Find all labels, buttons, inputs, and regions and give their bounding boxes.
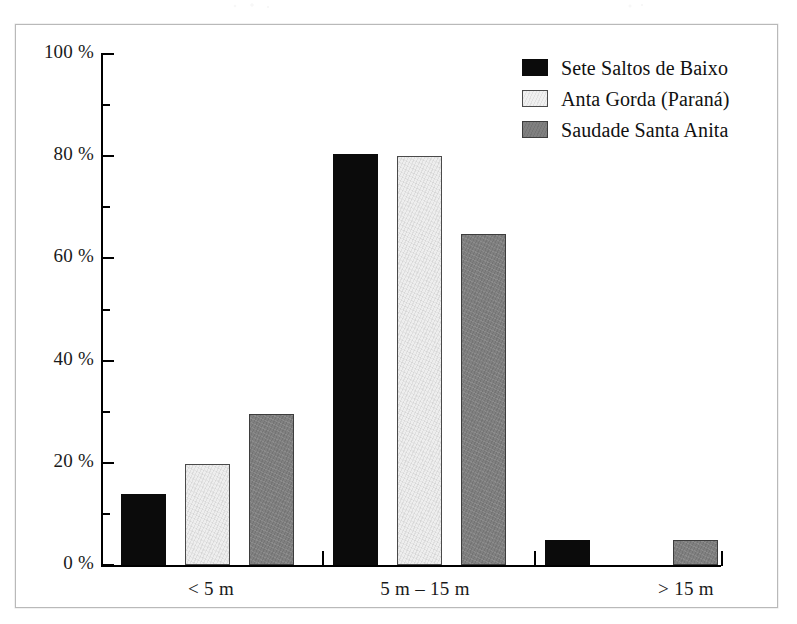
legend-item-label: Saudade Santa Anita [561,119,728,141]
y-axis-line [101,54,103,567]
bar [333,154,378,565]
gray-swatch-icon [522,121,548,138]
x-category-label: 5 m – 15 m [380,578,470,600]
scan-artifact [0,0,797,14]
x-axis-line [101,565,721,567]
y-tick-label: 100 % [44,42,94,62]
y-tick-label: 40 % [54,349,94,369]
bar [397,156,442,565]
legend-item: Saudade Santa Anita [522,114,780,145]
light-swatch-icon [522,90,548,107]
y-tick-label: 60 % [54,246,94,266]
y-tick-label: 0 % [63,553,94,573]
y-tick-minor [101,411,110,413]
bar [673,540,718,565]
x-tick [534,551,536,566]
bar [461,234,506,565]
chart-figure-frame: 0 %20 %40 %60 %80 %100 % < 5 m5 m – 15 m… [15,24,778,608]
y-tick-major: 20 % [101,462,114,464]
x-category-label: > 15 m [658,578,714,600]
legend-item: Sete Saltos de Baixo [522,52,780,83]
x-category-label: < 5 m [188,578,234,600]
y-tick-minor [101,309,110,311]
y-tick-minor [101,104,110,106]
y-tick-major: 0 % [101,564,114,566]
y-tick-label: 20 % [54,451,94,471]
bar [249,414,294,565]
bar [121,494,166,565]
black-swatch-icon [522,59,548,76]
legend-item: Anta Gorda (Paraná) [522,83,780,114]
y-tick-major: 80 % [101,155,114,157]
bar [185,464,230,565]
x-tick [721,551,723,566]
y-tick-major: 40 % [101,360,114,362]
y-tick-label: 80 % [54,144,94,164]
x-tick [322,551,324,566]
legend-item-label: Sete Saltos de Baixo [561,57,728,79]
y-tick-major: 100 % [101,53,114,55]
chart-legend: Sete Saltos de BaixoAnta Gorda (Paraná)S… [522,52,780,145]
y-tick-minor [101,206,110,208]
bar [545,540,590,565]
y-tick-major: 60 % [101,257,114,259]
legend-item-label: Anta Gorda (Paraná) [561,88,730,110]
y-tick-minor [101,513,110,515]
